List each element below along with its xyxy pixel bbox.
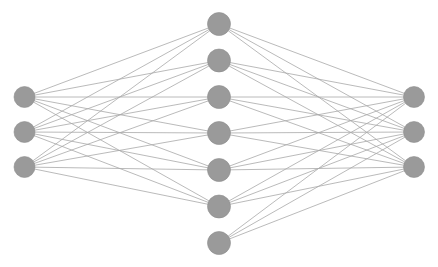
network-edge <box>25 61 220 98</box>
network-edge <box>219 167 414 243</box>
network-edge <box>219 61 414 133</box>
network-edge <box>219 132 414 243</box>
network-edge <box>25 24 220 167</box>
hidden-layer-node-3[interactable] <box>208 86 231 109</box>
hidden-layer-node-1[interactable] <box>208 13 231 36</box>
hidden-layer-node-7[interactable] <box>208 232 231 255</box>
network-edge <box>219 61 414 98</box>
network-edge <box>25 24 220 132</box>
output-layer-node-1[interactable] <box>404 87 425 108</box>
network-edge <box>219 24 414 97</box>
network-canvas <box>0 0 438 267</box>
hidden-layer-node-6[interactable] <box>208 195 231 218</box>
network-edge <box>219 132 414 133</box>
network-edge <box>25 167 220 207</box>
input-layer-node-2[interactable] <box>14 122 35 143</box>
network-edge <box>219 97 414 243</box>
hidden-layer-node-2[interactable] <box>208 49 231 72</box>
neural-network-diagram <box>0 0 438 267</box>
hidden-layer-node-4[interactable] <box>208 122 231 145</box>
network-edge <box>25 61 220 133</box>
node-layer <box>14 13 425 255</box>
network-edge <box>25 24 220 97</box>
network-edge <box>219 24 414 132</box>
hidden-layer-node-5[interactable] <box>208 159 231 182</box>
network-edge <box>219 97 414 170</box>
input-layer-node-1[interactable] <box>14 87 35 108</box>
network-edge <box>219 24 414 167</box>
network-edge <box>219 167 414 207</box>
input-layer-node-3[interactable] <box>14 157 35 178</box>
output-layer-node-3[interactable] <box>404 157 425 178</box>
output-layer-node-2[interactable] <box>404 122 425 143</box>
network-edge <box>25 97 220 170</box>
